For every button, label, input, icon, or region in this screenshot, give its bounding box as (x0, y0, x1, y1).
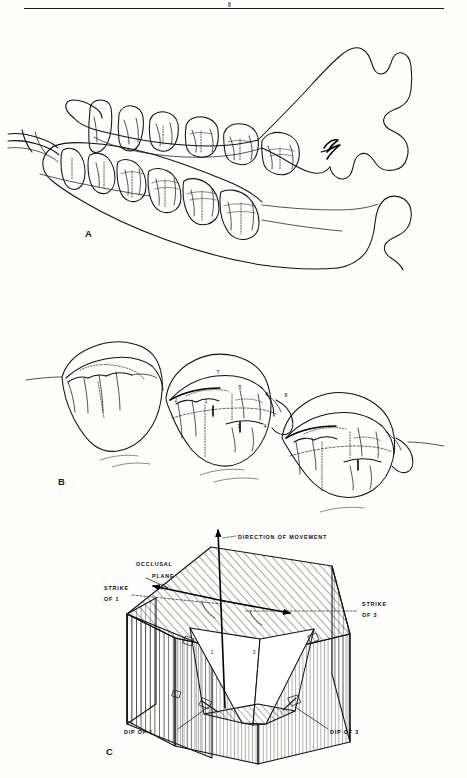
cusp-number-label: 5 (239, 384, 242, 390)
header-tick-mark (228, 2, 231, 7)
panel-c-letter: C (106, 746, 113, 757)
dip-of-1-label: DIP OF 1 (124, 729, 153, 735)
cusp-number-label: 3 (238, 423, 241, 429)
strike-of-1-label-line1: STRIKE (104, 585, 129, 591)
cusp-number-label: 8 (285, 392, 288, 398)
occlusal-plane-label-line1: OCCLUSAL (136, 561, 173, 567)
cusp-number-label: 2 (175, 397, 178, 403)
strike-of-1-label-line2: OF 1 (104, 596, 119, 602)
panel-c-block-diagram-strike-dip: DIRECTION OF MOVEMENT OCCLUSAL PLANE STR… (90, 508, 467, 770)
cusp-number-label: 1 (205, 398, 208, 404)
dip-of-3-label: DIP OF 3 (330, 729, 359, 735)
cusp-number-label: 4 (264, 423, 267, 429)
direction-of-movement-label: DIRECTION OF MOVEMENT (238, 534, 327, 540)
panel-b-molars-cusp-numbering: 2 1 7 5 6 8 3 4 (0, 320, 467, 520)
occlusal-plane-label-line2: PLANE (152, 573, 175, 579)
figure-page: A (0, 0, 467, 778)
header-rule (24, 8, 444, 9)
panel-a-letter: A (85, 228, 92, 239)
strike-of-3-label-line1: STRIKE (362, 601, 387, 607)
strike-of-3-label-line2: OF 3 (362, 612, 377, 618)
panel-a-mandible-lateral-view (0, 22, 467, 282)
facet-1-label: 1 (210, 649, 213, 655)
facet-3-label: 3 (252, 649, 255, 655)
panel-b-letter: B (58, 476, 65, 487)
cusp-number-label: 6 (266, 391, 269, 397)
cusp-number-label: 7 (217, 369, 220, 375)
